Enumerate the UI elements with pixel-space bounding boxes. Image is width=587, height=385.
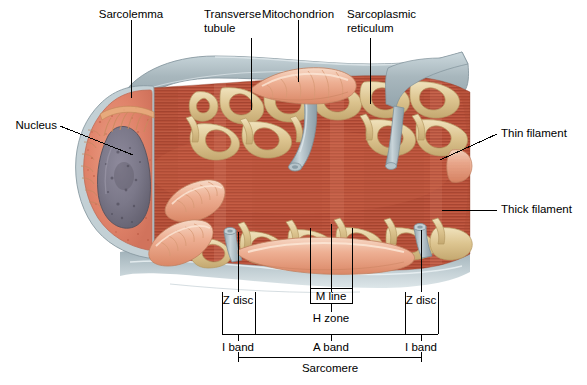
label-mitochondrion: Mitochondrion <box>240 8 356 21</box>
muscle-fiber-figure: Sarcolemma Transverse tubule Mitochondri… <box>0 0 587 385</box>
label-transverse-tubule-line2: tubule <box>204 22 235 35</box>
label-sarcomere: Sarcomere <box>280 362 380 375</box>
label-sarcoplasmic-reticulum-line1: Sarcoplasmic <box>347 8 416 21</box>
label-nucleus: Nucleus <box>0 119 57 132</box>
label-sarcoplasmic-reticulum-line2: reticulum <box>347 22 394 35</box>
label-thin-filament: Thin filament <box>501 127 567 140</box>
fiber-cut-end <box>76 86 154 258</box>
label-a-band: A band <box>305 341 357 354</box>
label-i-band-right: I band <box>395 341 447 354</box>
label-i-band-left: I band <box>212 341 264 354</box>
label-m-line: M line <box>310 290 352 303</box>
label-z-disc-left: Z disc <box>212 294 264 307</box>
label-h-zone: H zone <box>305 312 357 325</box>
label-z-disc-right: Z disc <box>395 294 447 307</box>
mitochondrion-right-edge <box>447 150 472 183</box>
label-sarcolemma: Sarcolemma <box>83 8 179 21</box>
muscle-fiber-illustration <box>0 0 587 385</box>
label-thick-filament: Thick filament <box>501 203 572 216</box>
